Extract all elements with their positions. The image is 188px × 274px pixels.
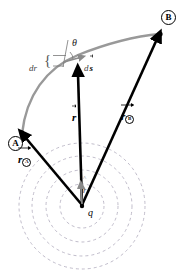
vector-label-r-b: rB: [121, 107, 134, 124]
diagram-canvas: [0, 0, 188, 274]
vector-label-base: r: [72, 111, 76, 123]
hat-accent-icon: ^: [83, 176, 86, 180]
differential-prefix: d: [84, 63, 89, 73]
vector-label-base: s: [90, 63, 94, 73]
radial-guide-line: [63, 40, 68, 67]
vector-r-B: [82, 39, 157, 205]
vector-label-r: r: [72, 108, 76, 124]
trajectory-path: [22, 34, 160, 134]
sample-point-dot: [78, 55, 82, 59]
physics-diagram-figure: A B q rA r rB ^ r d: [0, 0, 188, 274]
vector-r: [78, 74, 82, 205]
charge-dot: [80, 204, 84, 208]
dr-label: dr: [29, 64, 37, 73]
vector-label-r-hat: ^ r: [83, 180, 86, 196]
endpoint-label-a: A: [8, 136, 23, 151]
dr-brace: {: [44, 53, 51, 68]
theta-label: θ: [72, 38, 77, 48]
endpoint-dot-b: [157, 31, 162, 36]
endpoint-label-b: B: [161, 10, 176, 25]
vector-label-subscript-circled: B: [125, 115, 134, 124]
vector-label-base: r: [83, 186, 86, 195]
vector-label-r-a: rA: [18, 150, 31, 167]
vector-label-subscript-circled: A: [22, 158, 31, 167]
endpoint-dot-a: [20, 131, 25, 136]
vector-label-ds: d s: [84, 57, 93, 75]
vector-r-hat: [81, 187, 82, 204]
charge-label: q: [88, 208, 93, 218]
ds-base-stack: s: [90, 58, 94, 74]
